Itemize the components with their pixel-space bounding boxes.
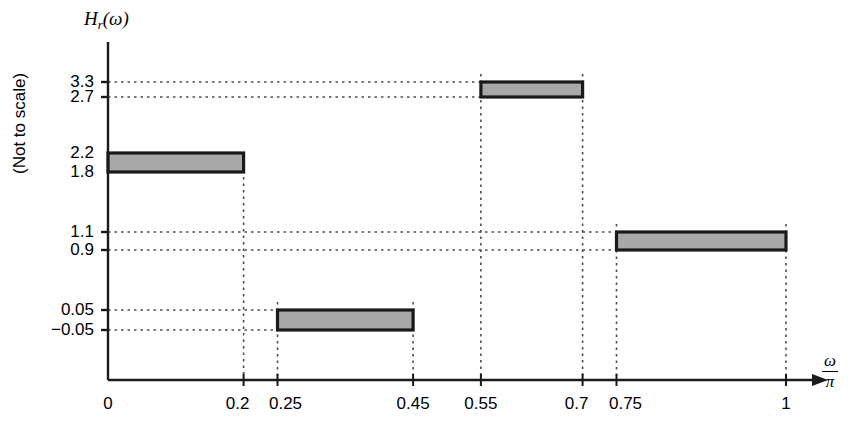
y-tick-label-5: 0.9 bbox=[0, 241, 94, 258]
x-tick-label-4: 0.55 bbox=[464, 395, 497, 412]
x-tick-label-5: 0.7 bbox=[565, 395, 589, 412]
y-tick-label-6: 0.05 bbox=[0, 301, 94, 318]
tolerance-band-2 bbox=[278, 310, 414, 330]
y-tick-label-7: −0.05 bbox=[0, 321, 94, 338]
y-axis-title-h: H bbox=[84, 8, 98, 29]
x-tick-label-7: 1 bbox=[781, 395, 790, 412]
y-tick-label-2: 2.2 bbox=[0, 144, 94, 161]
tolerance-band-3 bbox=[481, 82, 583, 97]
y-tick-label-1: 2.7 bbox=[0, 88, 94, 105]
y-axis-title-argument: (ω) bbox=[103, 8, 129, 29]
y-tick-label-4: 1.1 bbox=[0, 223, 94, 240]
x-tick-label-3: 0.45 bbox=[397, 395, 430, 412]
x-tick-label-6: 0.75 bbox=[609, 395, 642, 412]
x-axis-label: ω π bbox=[822, 352, 838, 391]
x-tick-label-2: 0.25 bbox=[269, 395, 302, 412]
x-tick-label-1: 0.2 bbox=[226, 395, 250, 412]
x-axis-label-denominator: π bbox=[822, 372, 838, 391]
tolerance-band-1 bbox=[108, 153, 244, 172]
tolerance-band-4 bbox=[617, 232, 787, 250]
y-tick-label-3: 1.8 bbox=[0, 163, 94, 180]
y-axis-title: Hr(ω) bbox=[84, 8, 129, 33]
x-tick-label-0: 0 bbox=[103, 395, 112, 412]
filter-tolerance-figure: Hr(ω) (Not to scale) 3.32.72.21.81.10.90… bbox=[0, 0, 860, 436]
x-axis-label-numerator: ω bbox=[822, 352, 838, 372]
plot-canvas bbox=[0, 0, 860, 436]
